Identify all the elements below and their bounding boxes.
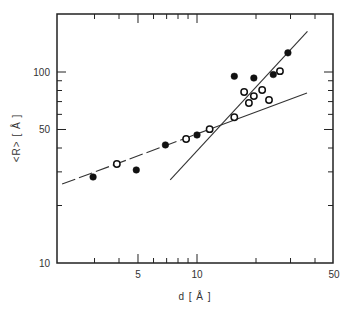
y-axis-ticks: 1050100 [33, 67, 333, 269]
open-circle-marker [259, 87, 265, 93]
filled-circle-marker [231, 73, 238, 80]
data-markers [90, 50, 291, 181]
filled-circle-marker [270, 71, 277, 78]
filled-circle-marker [285, 50, 292, 57]
fit-lines [62, 31, 307, 184]
x-axis-ticks: 51050 [95, 14, 340, 280]
open-circle-marker [266, 97, 272, 103]
filled-circle-marker [90, 174, 97, 181]
x-tick-label: 5 [135, 269, 141, 280]
plot-frame [57, 14, 333, 263]
open-circle-marker [241, 89, 247, 95]
y-tick-label: 100 [33, 67, 50, 78]
y-tick-label: 50 [39, 124, 51, 135]
y-axis-label: <R> [ Å ] [10, 114, 22, 162]
filled-circle-marker [162, 142, 169, 149]
filled-circle-marker [251, 75, 258, 82]
open-circle-marker [183, 136, 189, 142]
chart: 51050 1050100 d [ Å ] <R> [ Å ] [0, 0, 347, 312]
x-tick-label: 10 [191, 269, 203, 280]
y-tick-label: 10 [39, 258, 51, 269]
x-axis-label: d [ Å ] [178, 290, 211, 302]
open-circle-marker [246, 100, 252, 106]
open-circle-marker [251, 93, 257, 99]
open-circle-marker [206, 126, 212, 132]
open-circle-marker [231, 114, 237, 120]
x-tick-label: 50 [328, 269, 340, 280]
fit-line-solid [210, 93, 307, 129]
open-circle-marker [114, 161, 120, 167]
open-circle-marker [277, 68, 283, 74]
filled-circle-marker [194, 132, 201, 139]
filled-circle-marker [133, 167, 140, 174]
